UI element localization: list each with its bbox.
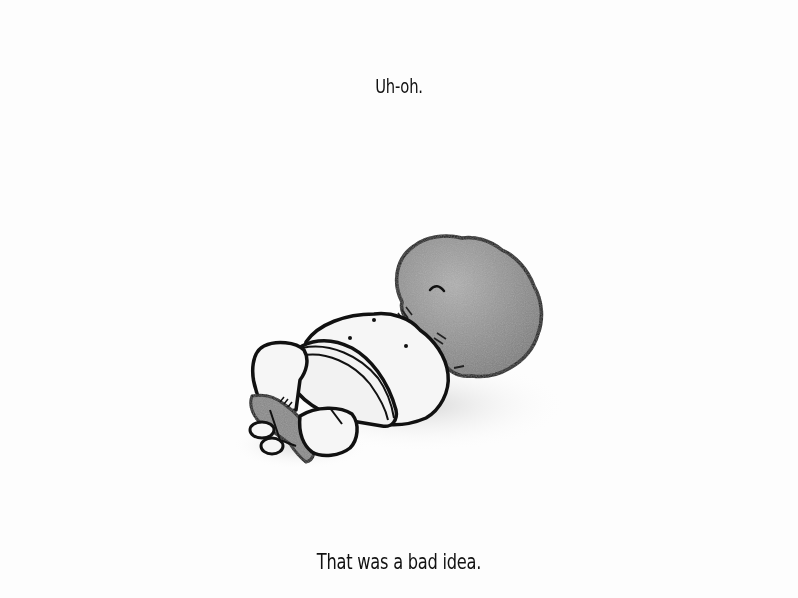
illustration bbox=[0, 0, 798, 598]
bottom-caption: That was a bad idea. bbox=[72, 549, 726, 574]
lower-leg bbox=[300, 408, 357, 455]
